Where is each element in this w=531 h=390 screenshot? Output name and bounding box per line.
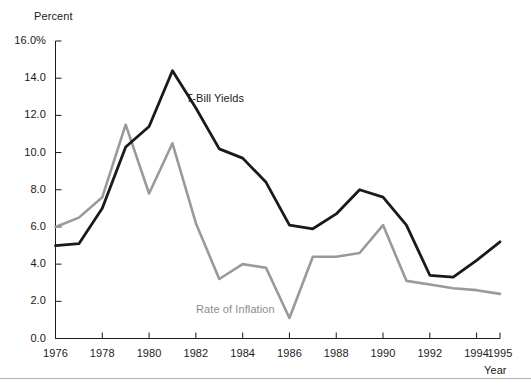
series-annotation-t-bill-yields: T-Bill Yields: [186, 92, 244, 104]
y-tick-label: 10.0: [2, 146, 46, 158]
y-tick-label: 4.0: [2, 257, 46, 269]
y-tick-label: 6.0: [2, 220, 46, 232]
x-tick-label: 1990: [363, 347, 403, 359]
x-tick-label: 1978: [82, 347, 122, 359]
series-line-t-bill-yields: [56, 71, 501, 277]
y-tick-label: 8.0: [2, 183, 46, 195]
x-tick-label: 1992: [410, 347, 450, 359]
x-tick-label: 1988: [316, 347, 356, 359]
x-tick-label: 1976: [36, 347, 76, 359]
x-tick-marks: [56, 333, 501, 339]
x-tick-label: 1982: [176, 347, 216, 359]
chart-figure: Percent Year 16.0%14.012.010.08.06.04.02…: [0, 0, 531, 390]
y-tick-label: 14.0: [2, 71, 46, 83]
y-axis-title: Percent: [34, 10, 73, 22]
series-annotation-rate-of-inflation: Rate of Inflation: [196, 303, 275, 315]
y-tick-label: 2.0: [2, 294, 46, 306]
y-tick-label: 16.0%: [2, 34, 46, 46]
x-tick-label: 1995: [480, 347, 520, 359]
x-tick-label: 1980: [129, 347, 169, 359]
y-tick-label: 12.0: [2, 108, 46, 120]
y-tick-label: 0.0: [2, 332, 46, 344]
data-series-group: [56, 71, 501, 318]
line-chart-plot: [0, 0, 531, 390]
x-tick-label: 1986: [269, 347, 309, 359]
footer-rule: [0, 378, 531, 379]
x-axis-title: Year: [484, 364, 507, 376]
x-tick-label: 1984: [223, 347, 263, 359]
y-tick-marks: [56, 41, 62, 339]
